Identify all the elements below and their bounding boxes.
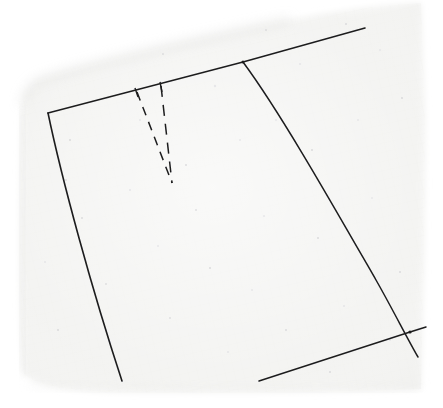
scanned-pattern-image [0,0,443,408]
junction-top-right [242,61,245,64]
pattern-drawing-canvas [0,0,443,408]
junction-bottom-right [408,330,411,333]
